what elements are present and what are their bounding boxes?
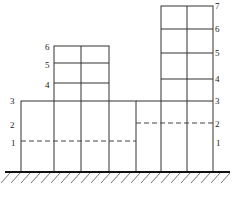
svg-text:5: 5: [215, 48, 220, 58]
svg-text:7: 7: [215, 1, 220, 11]
hatched-ground: [1, 172, 230, 183]
svg-text:6: 6: [215, 24, 220, 34]
level-labels: 3 2 1 6 5 4 7 6 5 4 3 2 1: [10, 1, 221, 148]
svg-text:4: 4: [45, 80, 50, 90]
svg-text:4: 4: [215, 74, 220, 84]
svg-text:6: 6: [45, 42, 50, 52]
svg-text:1: 1: [216, 138, 221, 148]
building-diagram: 3 2 1 6 5 4 7 6 5 4 3 2 1: [0, 0, 233, 199]
svg-text:2: 2: [10, 120, 15, 130]
left-low-block: [21, 101, 136, 172]
svg-text:2: 2: [215, 119, 220, 129]
svg-text:1: 1: [11, 138, 16, 148]
svg-text:5: 5: [45, 60, 50, 70]
svg-text:3: 3: [10, 96, 15, 106]
svg-text:3: 3: [215, 96, 220, 106]
